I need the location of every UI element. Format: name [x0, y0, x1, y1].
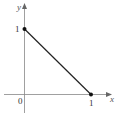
y-tick-label-1: 1 [15, 24, 20, 34]
line-segment-plot: y x 1 0 1 [0, 0, 115, 116]
data-line-segment [25, 29, 92, 95]
x-tick-label-1: 1 [89, 98, 94, 108]
data-point-1-0 [89, 93, 93, 97]
y-axis-label: y [16, 2, 21, 12]
data-point-0-1 [23, 27, 27, 31]
origin-label: 0 [18, 96, 23, 106]
x-axis-label: x [109, 94, 114, 104]
